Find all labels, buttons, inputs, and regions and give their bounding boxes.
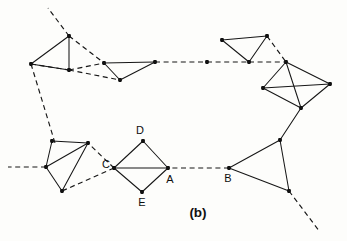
solid-edge [280,108,301,140]
vertex-label-a: A [166,173,174,185]
graph-node [50,139,54,143]
graph-node [261,86,265,90]
graph-node [86,141,90,145]
graph-node [278,138,282,142]
dashed-edge [69,36,104,63]
dashed-ray [289,191,320,232]
solid-edge [52,141,88,143]
graph-node [166,166,170,170]
graph-node [328,82,332,86]
solid-edge [114,168,142,192]
dashed-ray [31,64,55,143]
graph-node [205,60,209,64]
graph-node [140,190,144,194]
solid-edge [31,36,69,64]
graph-node [44,165,48,169]
solid-edge [249,36,267,62]
graph-diagram: DCAEB (b) [0,0,347,241]
solid-edge [114,141,143,168]
vertex-label-e: E [138,196,145,208]
dashed-edge [267,36,286,62]
solid-edge [31,64,69,70]
solid-edge [142,168,168,192]
solid-edge [222,36,267,40]
dashed-edge [69,63,104,70]
solid-edge [46,141,52,167]
solid-edge [120,62,155,80]
graph-node [29,62,33,66]
solid-edge [143,141,168,168]
vertex-label-b: B [224,172,231,184]
vertex-label-d: D [136,124,144,136]
graph-node [227,166,231,170]
graph-node [102,61,106,65]
graph-node [287,189,291,193]
solid-edge [229,140,280,168]
graph-node [220,38,224,42]
solid-edge [104,62,155,63]
graph-node [67,68,71,72]
solid-edge [263,62,286,88]
graph-node [299,106,303,110]
dashed-edge-layer [8,8,320,232]
graph-node [141,139,145,143]
dashed-ray [48,8,69,36]
graph-node [153,60,157,64]
node-layer [29,34,332,194]
graph-node [265,34,269,38]
solid-edge [280,140,289,191]
solid-edge [229,168,289,191]
graph-node [247,60,251,64]
solid-edge [46,167,62,191]
graph-node [284,60,288,64]
solid-edge [222,40,249,62]
dashed-edge [62,168,114,191]
solid-edge [301,84,330,108]
graph-node [118,78,122,82]
dashed-edge [88,143,114,168]
figure-caption: (b) [189,205,206,220]
graph-node [67,34,71,38]
solid-edge-layer [31,36,330,192]
solid-edge [263,84,330,88]
figure-container: DCAEB (b) [0,0,347,241]
graph-node [112,166,116,170]
graph-node [60,189,64,193]
vertex-label-c: C [102,158,110,170]
